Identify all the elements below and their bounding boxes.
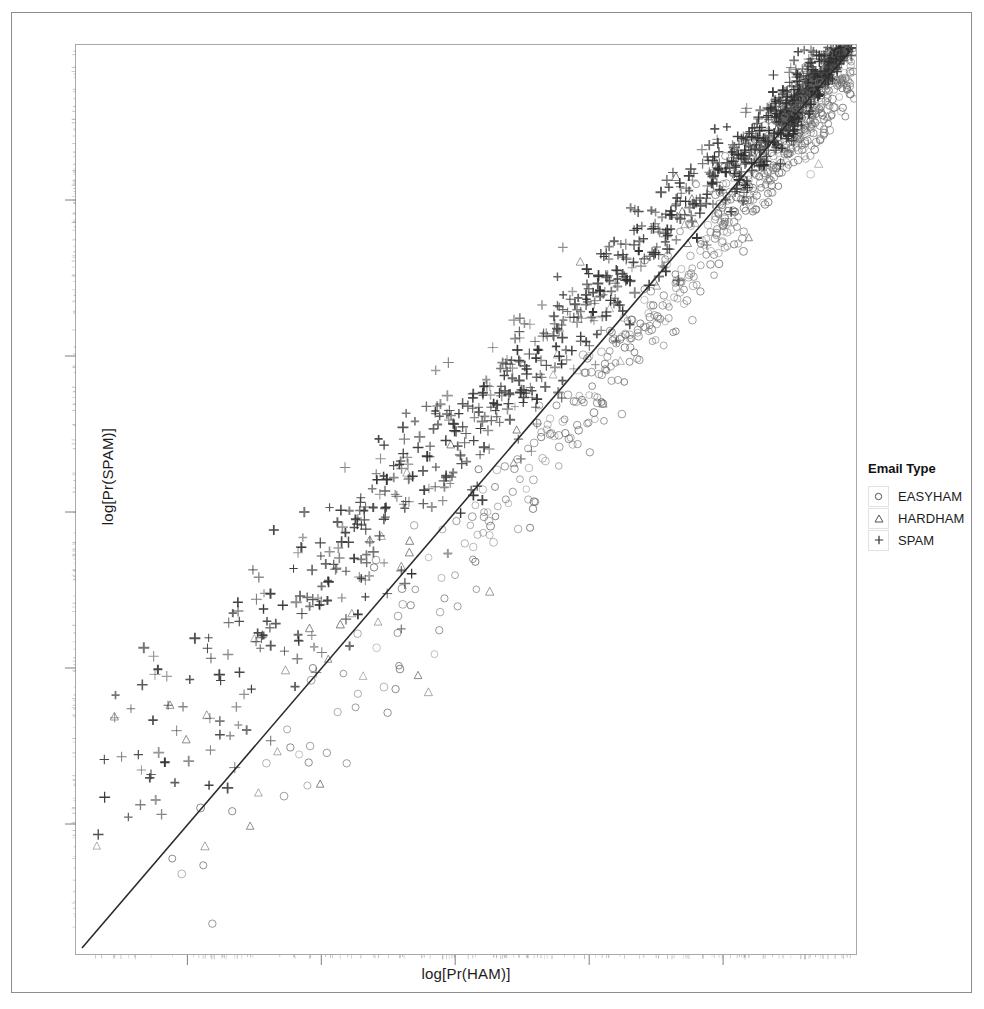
x-axis-major-ticks [187,955,723,965]
figure-frame: log[Pr(HAM)] log[Pr(SPAM)] Email Type EA… [11,12,972,993]
plus-icon [868,530,889,551]
x-axis-label: log[Pr(HAM)] [75,965,857,982]
scatter-plot-screenshot: log[Pr(HAM)] log[Pr(SPAM)] Email Type EA… [0,0,984,1009]
legend-item-spam[interactable]: SPAM [868,529,978,551]
legend: Email Type EASYHAM HARDHAM [868,461,978,551]
y-axis-label: log[Pr(SPAM)] [99,21,116,932]
legend-title: Email Type [868,461,978,476]
reference-line-y-equals-x [82,51,850,948]
plot-canvas [76,45,856,954]
y-axis-minor-ticks [72,51,77,927]
plot-panel [75,44,857,955]
x-axis-minor-ticks [96,955,851,960]
triangle-icon [868,508,889,529]
legend-item-hardham[interactable]: HARDHAM [868,507,978,529]
circle-icon [868,486,889,507]
legend-label-easyham: EASYHAM [898,489,962,504]
legend-label-hardham: HARDHAM [898,511,964,526]
y-axis-major-ticks [65,200,76,824]
y-axis-ticks [61,44,76,955]
legend-item-easyham[interactable]: EASYHAM [868,485,978,507]
legend-label-spam: SPAM [898,533,934,548]
